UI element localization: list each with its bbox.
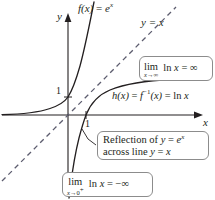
limit-body-negative-infinity: ln x = −∞ <box>86 178 129 189</box>
x-axis-label: x <box>203 117 208 128</box>
lim-subscript: x→0+ <box>67 187 84 197</box>
limit-expression-negative-infinity: lim x→0+ ln x = −∞ <box>67 175 129 195</box>
y-axis-tick-label-1: 1 <box>56 86 61 96</box>
lim-subscript: x→∞ <box>144 72 158 79</box>
reflection-line-2: across line y = x <box>103 146 171 157</box>
reflection-leader-line <box>82 129 96 145</box>
x-axis-tick-label-1: 1 <box>85 119 90 129</box>
y-axis-label: y <box>57 11 62 22</box>
exponential-curve <box>2 2 94 115</box>
limit-operator-stack: lim x→∞ <box>144 62 158 79</box>
exponential-curve-label: f(x) = ex <box>78 2 113 14</box>
callout-limit-x-to-infinity: lim x→∞ ln x = ∞ <box>139 56 213 81</box>
callout-limit-x-to-zero-plus: lim x→0+ ln x = −∞ <box>62 172 153 197</box>
logarithm-curve-label: h(x) = f−1(x) = ln x <box>112 89 189 101</box>
reflection-text: Reflection of y = ex across line y = x <box>103 132 184 158</box>
limit-body-infinity: ln x = ∞ <box>161 62 198 73</box>
limit-expression-infinity: lim x→∞ ln x = ∞ <box>144 60 197 77</box>
reflection-line-1: Reflection of y = ex <box>103 134 184 145</box>
exponential-logarithm-figure: f(x) = ex y = x h(x) = f−1(x) = ln x y x… <box>0 0 215 200</box>
limit-operator-stack: lim x→0+ <box>67 177 84 197</box>
identity-line-label: y = x <box>141 17 164 28</box>
y-axis <box>65 13 72 196</box>
callout-reflection-note: Reflection of y = ex across line y = x <box>97 131 209 160</box>
